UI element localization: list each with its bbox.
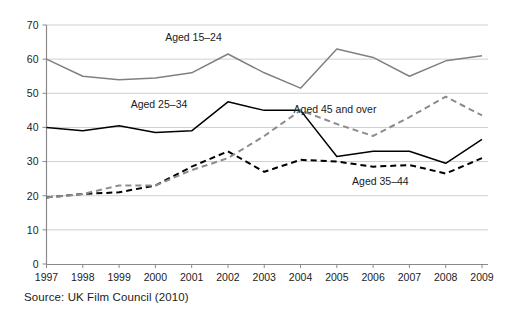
x-tick-label: 2000 [144,271,168,283]
x-tick-label: 1997 [35,271,59,283]
y-tick-label: 0 [33,258,39,270]
x-tick-label: 2004 [289,271,313,283]
y-tick-label: 40 [27,121,39,133]
line-chart: 010203040506070 199719981999200020012002… [0,0,513,286]
series-label: Aged 25–34 [131,98,188,110]
y-tick-label: 10 [27,224,39,236]
series-line-aged-15-24 [47,49,483,88]
x-tick-label: 2001 [180,271,204,283]
x-tick-label: 1998 [71,271,95,283]
x-tick-label: 2007 [398,271,422,283]
series-line-aged-25-34 [47,102,483,163]
series-line-aged-45-and-over [47,97,483,198]
gridlines [47,25,489,230]
x-tick-label: 2003 [253,271,277,283]
series-label: Aged 35–44 [352,175,409,187]
x-axis-ticks: 1997199819992000200120022003200420052006… [35,264,494,283]
y-axis-ticks: 010203040506070 [27,19,47,270]
x-tick-label: 1999 [107,271,131,283]
y-tick-label: 30 [27,155,39,167]
x-tick-label: 2006 [361,271,385,283]
y-tick-label: 20 [27,190,39,202]
x-tick-label: 2009 [470,271,494,283]
chart-canvas: 010203040506070 199719981999200020012002… [0,0,513,286]
x-tick-label: 2008 [434,271,458,283]
y-tick-label: 70 [27,19,39,31]
x-tick-label: 2002 [216,271,240,283]
x-tick-label: 2005 [325,271,349,283]
series-label: Aged 15–24 [165,31,222,43]
source-note: Source: UK Film Council (2010) [24,291,189,303]
series-label: Aged 45 and over [294,103,377,115]
y-tick-label: 50 [27,87,39,99]
y-tick-label: 60 [27,53,39,65]
series-lines [47,49,483,198]
chart-figure: 010203040506070 199719981999200020012002… [0,0,513,320]
series-annotations: Aged 15–24Aged 25–34Aged 45 and overAged… [131,31,409,187]
series-line-aged-35-44 [47,151,483,197]
